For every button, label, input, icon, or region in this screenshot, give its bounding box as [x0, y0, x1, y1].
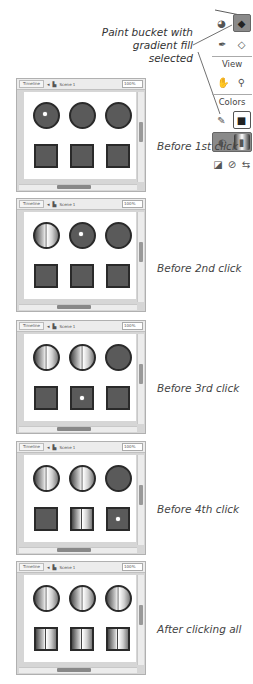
scrollbar-thumb[interactable] — [57, 548, 91, 552]
swap-colors-icon[interactable]: ⇆ — [241, 156, 252, 172]
horizontal-scrollbar[interactable] — [19, 304, 137, 310]
square-shape[interactable] — [34, 144, 58, 168]
scrollbar-thumb[interactable] — [57, 427, 91, 431]
vertical-scrollbar[interactable] — [137, 212, 144, 302]
square-shape[interactable] — [34, 386, 58, 410]
square-shape[interactable] — [70, 386, 94, 410]
timeline-button[interactable]: Timeline — [19, 200, 44, 208]
circle-shape[interactable] — [33, 344, 60, 371]
timeline-button[interactable]: Timeline — [19, 80, 44, 88]
vertical-scrollbar[interactable] — [137, 575, 144, 665]
square-shape[interactable] — [106, 627, 130, 651]
scene-label[interactable]: Scene 1 — [59, 324, 75, 329]
flash-stage-window: Timeline ◂ ▙ Scene 1 100% — [16, 78, 146, 192]
ink-bottle-icon[interactable]: ◕ — [214, 15, 230, 31]
stage-canvas[interactable] — [24, 92, 136, 179]
back-arrow-icon[interactable]: ◂ — [47, 564, 50, 570]
scrollbar-thumb[interactable] — [57, 305, 91, 309]
circle-shape[interactable] — [33, 465, 60, 492]
square-shape[interactable] — [106, 264, 130, 288]
eyedropper-icon[interactable]: ✒ — [215, 36, 231, 52]
square-shape[interactable] — [34, 507, 58, 531]
timeline-bar: Timeline ◂ ▙ Scene 1 100% — [17, 321, 145, 332]
scrollbar-thumb[interactable] — [139, 242, 143, 262]
square-shape[interactable] — [70, 264, 94, 288]
circle-shape[interactable] — [33, 222, 60, 249]
square-shape[interactable] — [70, 507, 94, 531]
callout-line-1: Paint bucket with — [95, 26, 193, 39]
square-shape[interactable] — [106, 144, 130, 168]
back-arrow-icon[interactable]: ◂ — [47, 201, 50, 207]
hand-icon[interactable]: ✋ — [215, 74, 231, 90]
scrollbar-thumb[interactable] — [57, 668, 91, 672]
paint-bucket-cursor-icon — [79, 232, 83, 236]
stage-canvas[interactable] — [24, 455, 136, 542]
zoom-icon[interactable]: ⚲ — [234, 74, 250, 90]
back-arrow-icon[interactable]: ◂ — [47, 323, 50, 329]
circle-shape[interactable] — [105, 465, 132, 492]
timeline-button[interactable]: Timeline — [19, 563, 44, 571]
square-shape[interactable] — [70, 144, 94, 168]
callout-text: Paint bucket with gradient fill selected — [95, 26, 193, 65]
scrollbar-thumb[interactable] — [139, 122, 143, 142]
timeline-bar: Timeline ◂ ▙ Scene 1 100% — [17, 442, 145, 453]
paint-bucket-cursor-icon — [116, 517, 120, 521]
horizontal-scrollbar[interactable] — [19, 547, 137, 553]
stage-canvas[interactable] — [24, 212, 136, 299]
back-arrow-icon[interactable]: ◂ — [47, 81, 50, 87]
zoom-field[interactable]: 100% — [122, 322, 143, 330]
scrollbar-thumb[interactable] — [139, 364, 143, 384]
circle-shape[interactable] — [69, 344, 96, 371]
flash-stage-window: Timeline ◂ ▙ Scene 1 100% — [16, 561, 146, 675]
scene-icon: ▙ — [53, 444, 57, 450]
flash-stage-window: Timeline ◂ ▙ Scene 1 100% — [16, 441, 146, 555]
scrollbar-thumb[interactable] — [139, 605, 143, 625]
paint-bucket-cursor-icon — [43, 112, 47, 116]
square-shape[interactable] — [106, 507, 130, 531]
view-section-label: View — [212, 56, 252, 70]
zoom-field[interactable]: 100% — [122, 563, 143, 571]
scene-label[interactable]: Scene 1 — [59, 202, 75, 207]
circle-shape[interactable] — [105, 344, 132, 371]
circle-shape[interactable] — [33, 102, 60, 129]
scrollbar-thumb[interactable] — [57, 185, 91, 189]
vertical-scrollbar[interactable] — [137, 92, 144, 182]
scene-label[interactable]: Scene 1 — [59, 565, 75, 570]
square-shape[interactable] — [70, 627, 94, 651]
horizontal-scrollbar[interactable] — [19, 184, 137, 190]
no-color-icon[interactable]: ⊘ — [227, 156, 238, 172]
circle-shape[interactable] — [69, 465, 96, 492]
scene-label[interactable]: Scene 1 — [59, 445, 75, 450]
square-shape[interactable] — [34, 264, 58, 288]
black-white-icon[interactable]: ◪ — [213, 156, 224, 172]
vertical-scrollbar[interactable] — [137, 334, 144, 424]
zoom-field[interactable]: 100% — [122, 80, 143, 88]
back-arrow-icon[interactable]: ◂ — [47, 444, 50, 450]
zoom-field[interactable]: 100% — [122, 200, 143, 208]
paint-bucket-icon[interactable]: ◆ — [233, 14, 251, 32]
zoom-field[interactable]: 100% — [122, 443, 143, 451]
eraser-icon[interactable]: ◇ — [234, 36, 250, 52]
circle-shape[interactable] — [105, 585, 132, 612]
step-caption: Before 4th click — [157, 503, 239, 515]
fill-color-swatch[interactable]: ■ — [233, 111, 251, 129]
step-caption: Before 3rd click — [157, 382, 239, 394]
stroke-color-icon[interactable]: ✎ — [214, 112, 230, 128]
timeline-button[interactable]: Timeline — [19, 322, 44, 330]
horizontal-scrollbar[interactable] — [19, 426, 137, 432]
circle-shape[interactable] — [33, 585, 60, 612]
circle-shape[interactable] — [105, 222, 132, 249]
square-shape[interactable] — [106, 386, 130, 410]
circle-shape[interactable] — [69, 585, 96, 612]
scrollbar-thumb[interactable] — [139, 485, 143, 505]
stage-canvas[interactable] — [24, 575, 136, 662]
circle-shape[interactable] — [69, 222, 96, 249]
circle-shape[interactable] — [105, 102, 132, 129]
horizontal-scrollbar[interactable] — [19, 667, 137, 673]
timeline-button[interactable]: Timeline — [19, 443, 44, 451]
scene-label[interactable]: Scene 1 — [59, 82, 75, 87]
circle-shape[interactable] — [69, 102, 96, 129]
vertical-scrollbar[interactable] — [137, 455, 144, 545]
stage-canvas[interactable] — [24, 334, 136, 421]
square-shape[interactable] — [34, 627, 58, 651]
